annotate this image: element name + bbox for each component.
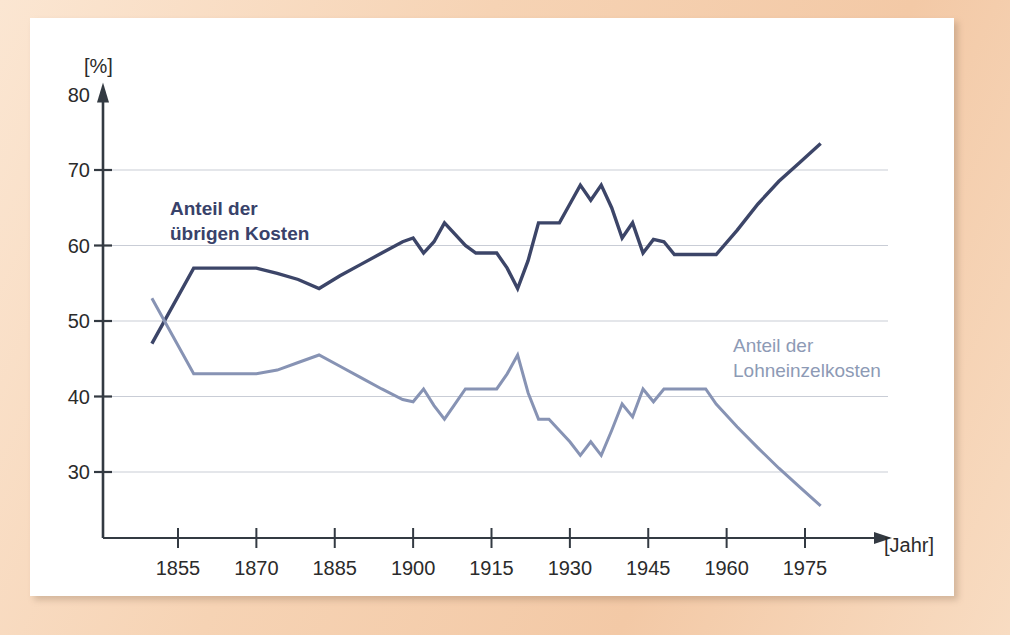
x-tick-label-1960: 1960: [704, 557, 749, 580]
x-tick-label-1900: 1900: [391, 557, 436, 580]
x-tick-label-1915: 1915: [469, 557, 514, 580]
x-tick-label-1870: 1870: [234, 557, 279, 580]
axes: [97, 83, 892, 545]
y-axis-unit-label: [%]: [84, 55, 113, 78]
figure-root: [%] [Jahr] 304050607080 1855187018851900…: [0, 0, 1010, 635]
x-tick-label-1855: 1855: [156, 557, 201, 580]
x-tick-label-1885: 1885: [313, 557, 358, 580]
line-chart: [0, 0, 1010, 635]
y-tick-label-80: 80: [46, 83, 90, 106]
series-label-uebrige-kosten: Anteil der übrigen Kosten: [170, 196, 309, 246]
y-axis-arrow: [97, 83, 109, 103]
y-tick-label-60: 60: [46, 234, 90, 257]
x-tick-label-1930: 1930: [548, 557, 593, 580]
y-tick-label-50: 50: [46, 310, 90, 333]
y-tick-label-40: 40: [46, 385, 90, 408]
series-label-lohneinzelkosten: Anteil der Lohneinzelkosten: [733, 333, 881, 383]
x-tick-label-1945: 1945: [626, 557, 671, 580]
y-tick-label-70: 70: [46, 159, 90, 182]
y-tick-label-30: 30: [46, 461, 90, 484]
x-axis-unit-label: [Jahr]: [884, 534, 934, 557]
series-line-1: [152, 298, 821, 506]
x-tick-label-1975: 1975: [783, 557, 828, 580]
